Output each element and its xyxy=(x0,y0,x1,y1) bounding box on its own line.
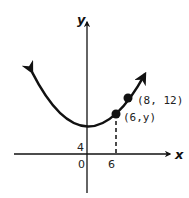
tick-label-4: 4 xyxy=(77,141,84,154)
point-label-6-y: (6,y) xyxy=(123,111,156,124)
tick-label-6: 6 xyxy=(108,158,115,171)
y-axis-label: y xyxy=(77,12,86,27)
point-8-12 xyxy=(124,94,133,103)
tick-label-0: 0 xyxy=(78,158,85,171)
x-axis-label: x xyxy=(174,147,184,162)
point-label-8-12: (8, 12) xyxy=(137,94,183,107)
parabola-diagram: x y (6,y) (8, 12) 4 0 6 xyxy=(0,0,189,198)
point-6-y xyxy=(112,110,121,119)
